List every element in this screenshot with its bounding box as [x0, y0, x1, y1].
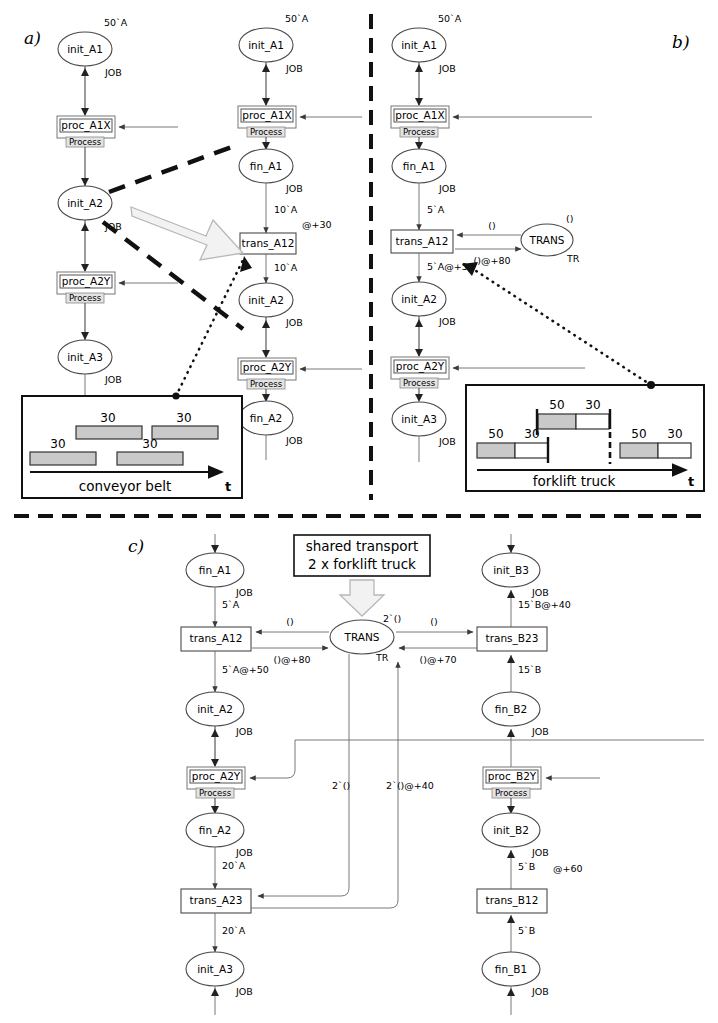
type-c-init-b2: JOB — [531, 847, 549, 858]
marking-a2-init-a1: 50`A — [285, 13, 309, 24]
transition-c-trans-a23-label: trans_A23 — [190, 894, 243, 907]
place-c-fin-a1-label: fin_A1 — [199, 564, 231, 577]
place-init-a2-label: init_A2 — [67, 197, 103, 210]
arrowhead-c-up-b23 — [507, 655, 515, 663]
arrowhead-c-up-b12in — [507, 915, 515, 923]
arrowhead-down-a2 — [81, 178, 89, 186]
tag-r-proc-a1x: Process — [250, 127, 283, 137]
forklift-bar-1-busy — [477, 443, 515, 458]
forklift-bar-3-busy — [620, 443, 658, 458]
delay-trans-a12: @+30 — [302, 219, 332, 230]
type-c-fin-b2: JOB — [531, 726, 549, 737]
arrowhead-up-r1 — [262, 64, 270, 72]
place-c-init-a3-label: init_A3 — [197, 963, 233, 976]
type-c-fin-a1: JOB — [235, 587, 253, 598]
arrowhead-down-r1 — [262, 98, 270, 106]
conveyor-dot-anchor — [172, 392, 179, 399]
type-a2-init-a1: JOB — [285, 63, 303, 74]
panel-b: b) init_A1 50`A JOB proc_A1X Process fin… — [391, 13, 704, 491]
arc-c-a23-to-res — [251, 662, 398, 908]
type-c-fin-b1: JOB — [531, 986, 549, 997]
arrowhead-b-up2 — [415, 319, 423, 327]
arc-label-c-b23-out: 15`B@+40 — [518, 599, 571, 610]
arrowhead-c-up-finb2 — [507, 729, 515, 737]
arrowhead-b-down2 — [415, 349, 423, 357]
substitution-r-proc-a2y-label: proc_A2Y — [243, 361, 292, 374]
arc-label-b-in: 5`A — [427, 204, 445, 215]
substitution-b-proc-a1x-label: proc_A1X — [395, 109, 444, 122]
delay-c-trans-b12: @+60 — [553, 863, 583, 874]
place-a2-init-a1-label: init_A1 — [248, 39, 284, 52]
type-fin-a2: JOB — [285, 435, 303, 446]
type-r-init-a2: JOB — [285, 317, 303, 328]
substitution-c-proc-a2y-label: proc_A2Y — [192, 770, 241, 783]
forklift-bar-3-idle — [658, 443, 691, 458]
marking-c-trans-resource: 2`() — [383, 613, 401, 624]
marking-b-trans-resource: () — [566, 213, 573, 224]
conveyor-bar-3-label: 30 — [50, 437, 65, 451]
conveyor-bar-1-label: 30 — [100, 411, 115, 425]
conveyor-belt-title: conveyor belt — [79, 478, 172, 494]
arrowhead-up-a1 — [81, 68, 89, 76]
conveyor-bar-1 — [76, 426, 142, 439]
panel-c-label: c) — [128, 536, 144, 556]
place-c-init-b3-label: init_B3 — [493, 564, 529, 577]
place-c-fin-b1-label: fin_B1 — [495, 963, 527, 976]
panel-a: a) init_A1 50`A JOB proc_A1X Process ini… — [22, 13, 362, 498]
arc-label-c-a12-resin: () — [286, 616, 293, 627]
arc-label-c-a12-out: 5`A@+50 — [222, 664, 269, 675]
tag-c-proc-a2y: Process — [199, 788, 232, 798]
refinement-gray-arrow — [131, 207, 243, 260]
refine-dash-upper — [109, 145, 237, 192]
conveyor-bar-2-label: 30 — [176, 411, 191, 425]
place-init-a1-label: init_A1 — [67, 43, 103, 56]
arrowhead-down-a1 — [81, 108, 89, 116]
type-fin-a1: JOB — [285, 183, 303, 194]
arc-label-c-a12-in: 5`A — [222, 599, 240, 610]
place-b-init-a1-label: init_A1 — [401, 39, 437, 52]
panel-c-note: shared transport 2 x forklift truck — [294, 535, 430, 616]
arrowhead-c-fina1 — [211, 545, 219, 553]
tag-b-proc-a1x: Process — [403, 127, 436, 137]
transition-trans-a12-label: trans_A12 — [242, 237, 295, 250]
substitution-proc-a2y-label: proc_A2Y — [62, 275, 111, 288]
note-line-2: 2 x forklift truck — [308, 556, 416, 572]
forklift-dot-connector — [470, 267, 651, 385]
forklift-bar-2-idle — [576, 414, 609, 429]
arrowhead-c-up1 — [211, 729, 219, 737]
place-fin-a1-label: fin_A1 — [250, 160, 282, 173]
forklift-bar-3-busy-label: 50 — [631, 427, 646, 441]
place-b-init-a3-label: init_A3 — [401, 413, 437, 426]
transition-c-trans-a12-label: trans_A12 — [190, 632, 243, 645]
type-init-a3: JOB — [104, 374, 122, 385]
place-b-init-a2-label: init_A2 — [401, 293, 437, 306]
arrowhead-c-initb3 — [507, 545, 515, 553]
note-line-1: shared transport — [306, 538, 419, 554]
forklift-dot-anchor — [647, 381, 655, 389]
transition-c-trans-b23-label: trans_B23 — [486, 632, 539, 645]
arc-label-c-a23-resin: 2`() — [332, 780, 350, 791]
arc-label-c-a23-in: 20`A — [222, 860, 246, 871]
type-c-fin-a2: JOB — [235, 847, 253, 858]
arc-label-c-b12-out: 5`B — [518, 861, 535, 872]
arc-c-res-to-a23 — [258, 654, 349, 896]
panel-c-shared-arcs: 2`() 2`()@+40 — [251, 654, 434, 908]
panel-a-left-column: init_A1 50`A JOB proc_A1X Process init_A… — [57, 17, 178, 397]
forklift-bar-2-idle-label: 30 — [585, 398, 600, 412]
conveyor-bar-4-label: 30 — [142, 437, 157, 451]
place-r-init-a2-label: init_A2 — [248, 294, 284, 307]
conveyor-bar-2 — [152, 426, 218, 439]
arc-label-b-res-out: ()@+80 — [474, 255, 511, 266]
arrowhead-b-up1 — [415, 64, 423, 72]
place-c-fin-b2-label: fin_B2 — [495, 703, 527, 716]
arc-label-c-a23-out: 20`A — [222, 925, 246, 936]
place-b-fin-a1-label: fin_A1 — [403, 160, 435, 173]
arrowhead-up-r2 — [262, 320, 270, 328]
arrowhead-b-inita3 — [415, 394, 423, 402]
type-c-init-b3: JOB — [531, 587, 549, 598]
substitution-r-proc-a1x-label: proc_A1X — [242, 109, 291, 122]
arrowhead-c-up-b1 — [507, 988, 515, 996]
arrowhead-c-up-b3 — [507, 590, 515, 598]
place-c-init-a2-label: init_A2 — [197, 703, 233, 716]
forklift-bar-1-busy-label: 50 — [488, 427, 503, 441]
